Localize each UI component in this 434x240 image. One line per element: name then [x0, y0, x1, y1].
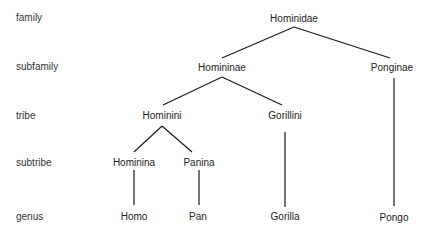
rank-label-subtribe: subtribe — [16, 157, 52, 169]
node-pan: Pan — [189, 211, 207, 223]
node-hominina: Hominina — [113, 157, 155, 169]
edge-homininae-gorillini — [222, 77, 282, 105]
edge-hominidae-ponginae — [294, 27, 390, 58]
node-ponginae: Ponginae — [371, 62, 413, 74]
edge-hominini-hominina — [134, 126, 162, 152]
edge-hominidae-homininae — [222, 27, 294, 58]
node-hominidae: Hominidae — [270, 13, 318, 25]
node-hominini: Hominini — [143, 110, 182, 122]
node-gorilla: Gorilla — [271, 211, 300, 223]
node-panina: Panina — [183, 157, 214, 169]
rank-label-tribe: tribe — [16, 110, 35, 122]
rank-label-subfamily: subfamily — [16, 61, 58, 73]
edge-homininae-hominini — [163, 77, 222, 105]
node-pongo: Pongo — [380, 212, 409, 224]
node-homo: Homo — [121, 211, 148, 223]
node-homininae: Homininae — [198, 62, 246, 74]
taxonomy-diagram: family subfamily tribe subtribe genus Ho… — [0, 0, 434, 240]
rank-label-genus: genus — [16, 211, 43, 223]
edge-hominini-panina — [162, 126, 192, 152]
node-gorillini: Gorillini — [268, 110, 301, 122]
tree-edges — [0, 0, 434, 240]
rank-label-family: family — [16, 12, 42, 24]
